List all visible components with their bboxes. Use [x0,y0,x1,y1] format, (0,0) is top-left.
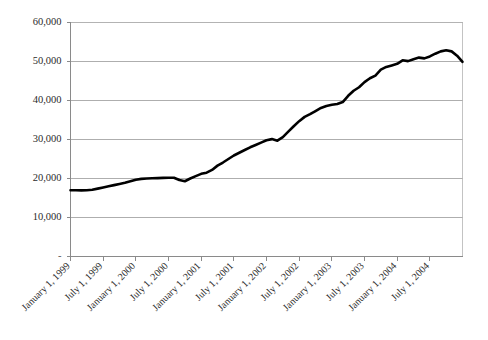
series-line [71,50,463,190]
y-tick-label: 60,000 [33,16,62,27]
line-chart: -10,00020,00030,00040,00050,00060,000 Ja… [0,0,488,340]
y-tick-label: 30,000 [33,133,62,144]
x-axis [71,257,463,261]
y-tick-label: 40,000 [33,94,62,105]
chart-canvas: -10,00020,00030,00040,00050,00060,000 Ja… [0,0,488,340]
data-series [71,50,463,190]
y-tick-label: - [58,250,62,261]
y-axis: -10,00020,00030,00040,00050,00060,000 [33,16,71,261]
x-tick-label: January 1, 1999 [19,260,72,313]
gridlines [71,23,463,218]
x-axis-tick-labels: January 1, 1999July 1, 1999January 1, 20… [19,260,431,313]
y-tick-label: 10,000 [33,211,62,222]
y-tick-label: 50,000 [33,55,62,66]
y-tick-label: 20,000 [33,172,62,183]
